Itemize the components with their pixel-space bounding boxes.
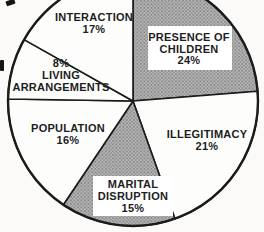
slice-label-population-line-1: POPULATION <box>31 122 105 134</box>
slice-label-marital-disruption-line-1: MARITAL <box>108 178 158 190</box>
slice-label-presence-of-children-line-3: 24% <box>178 54 201 66</box>
slice-label-interaction-line-2: 17% <box>83 23 106 35</box>
slice-label-living-arrangements-line-3: ARRANGEMENTS <box>12 81 109 93</box>
slice-label-interaction-line-1: INTERACTION <box>55 11 133 23</box>
pie-chart: PRESENCE OFCHILDREN24%ILLEGITIMACY21%MAR… <box>0 0 264 232</box>
slice-label-living-arrangements-line-1: 8% <box>53 57 69 69</box>
slice-label-illegitimacy-line-2: 21% <box>196 140 219 152</box>
slice-label-marital-disruption-line-3: 15% <box>122 202 145 214</box>
slice-label-living-arrangements-line-2: LIVING <box>42 69 80 81</box>
slice-label-illegitimacy-line-1: ILLEGITIMACY <box>167 128 248 140</box>
slice-label-marital-disruption-line-2: DISRUPTION <box>98 190 168 202</box>
slice-label-population-line-2: 16% <box>57 134 80 146</box>
slice-label-presence-of-children-line-1: PRESENCE OF <box>148 31 230 43</box>
pie-chart-figure: PRESENCE OFCHILDREN24%ILLEGITIMACY21%MAR… <box>0 0 264 232</box>
scan-artifact-left-edge <box>0 60 4 71</box>
